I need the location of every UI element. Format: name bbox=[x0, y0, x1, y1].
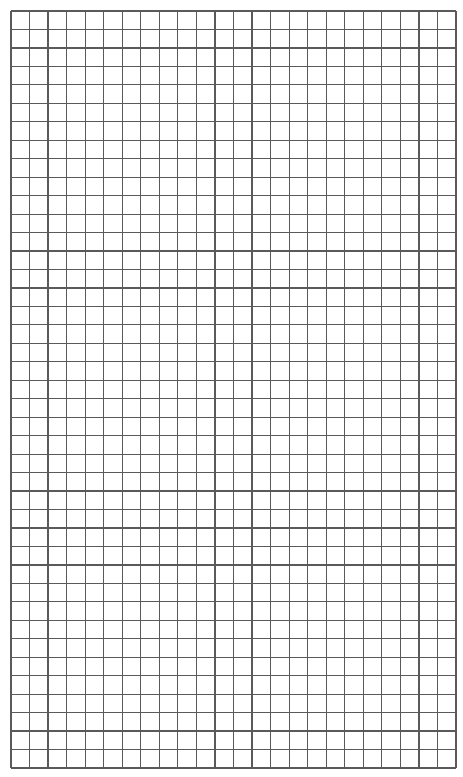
graph-paper-grid bbox=[10, 10, 457, 769]
